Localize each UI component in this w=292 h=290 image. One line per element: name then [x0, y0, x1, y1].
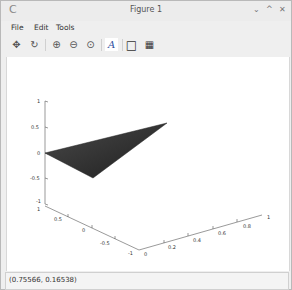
menu-bar: File Edit Tools [1, 21, 291, 35]
z-tick: 0.5 [31, 124, 39, 130]
toolbar-separator [122, 39, 123, 51]
zoom-reset-icon[interactable]: ⊙ [84, 38, 97, 51]
zoom-in-icon[interactable]: ⊕ [50, 38, 63, 51]
x-tick: 0 [144, 251, 147, 257]
y-tick: 0.5 [54, 216, 62, 222]
x-tick: 0.6 [218, 230, 226, 236]
insert-text-icon[interactable]: A [105, 38, 118, 51]
toolbar-separator [101, 39, 102, 51]
maximize-icon[interactable]: ^ [266, 5, 273, 15]
y-tick: 0 [82, 227, 85, 233]
pan-icon[interactable]: ✥ [10, 38, 23, 51]
x-tick: 0.4 [193, 237, 201, 243]
minimize-icon[interactable]: ⌄ [253, 5, 260, 15]
y-tick: -0.5 [100, 240, 110, 246]
axes-3d: 1 0.5 0 -0.5 -1 1 0.5 0 -0.5 -1 [7, 57, 289, 271]
close-icon[interactable]: ✕ [279, 5, 286, 15]
menu-tools[interactable]: Tools [56, 23, 74, 32]
rotate-icon[interactable]: ↻ [28, 38, 41, 51]
title-bar[interactable]: C Figure 1 ⌄ ^ ✕ [1, 1, 291, 21]
toolbar: ✥ ↻ ⊕ ⊖ ⊙ A □ ▦ [1, 36, 291, 55]
x-tick: 0.2 [168, 244, 176, 250]
x-tick: 1 [267, 214, 270, 220]
figure-window: C Figure 1 ⌄ ^ ✕ File Edit Tools ✥ ↻ ⊕ ⊖… [0, 0, 292, 290]
menu-file[interactable]: File [11, 23, 24, 32]
toggle-grid-icon[interactable]: ▦ [143, 38, 156, 51]
cursor-coordinates: (0.75566, 0.16538) [9, 276, 77, 284]
status-bar: (0.75566, 0.16538) [5, 272, 289, 290]
window-title: Figure 1 [1, 5, 291, 14]
triangle-patch [45, 123, 167, 178]
z-tick: -0.5 [30, 175, 40, 181]
toggle-axes-icon[interactable]: □ [125, 38, 138, 51]
x-tick: 0.8 [243, 223, 251, 229]
plot-canvas[interactable]: 1 0.5 0 -0.5 -1 1 0.5 0 -0.5 -1 [6, 57, 290, 271]
y-tick: -1 [128, 250, 133, 256]
z-tick: -1 [36, 198, 41, 204]
menu-edit[interactable]: Edit [34, 23, 49, 32]
y-tick: 1 [37, 206, 40, 212]
zoom-out-icon[interactable]: ⊖ [67, 38, 80, 51]
toolbar-separator [45, 39, 46, 51]
z-tick: 1 [37, 98, 40, 104]
z-tick: 0 [37, 150, 40, 156]
